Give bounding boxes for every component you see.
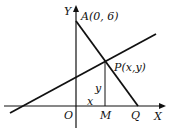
point-q-label: Q xyxy=(131,110,140,121)
point-p-label: P(x,y) xyxy=(114,62,146,73)
segment-y-label: y xyxy=(95,83,101,94)
y-axis-arrow xyxy=(73,5,79,12)
origin-label: O xyxy=(64,110,73,121)
point-a-label: A(0, 6) xyxy=(81,11,119,22)
axis-x-label: X xyxy=(154,111,162,122)
axis-y-label: Y xyxy=(64,6,71,17)
point-m-label: M xyxy=(100,110,111,121)
segment-x-label: x xyxy=(87,96,93,107)
coordinate-diagram: Y A(0, 6) P(x,y) y x O M Q X xyxy=(0,0,171,133)
x-axis-arrow xyxy=(159,103,166,109)
